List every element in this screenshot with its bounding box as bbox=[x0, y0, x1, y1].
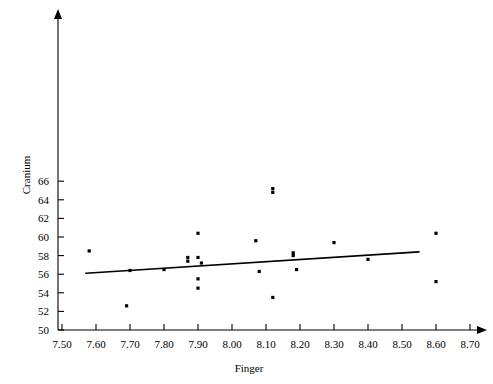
x-tick-label: 8.70 bbox=[460, 338, 480, 350]
y-axis-ticks: 505254565860626466 bbox=[38, 175, 64, 336]
x-tick-label: 7.70 bbox=[120, 338, 140, 350]
data-point bbox=[292, 251, 295, 254]
x-tick-label: 8.50 bbox=[392, 338, 412, 350]
data-points-group bbox=[88, 187, 438, 307]
x-tick-label: 8.20 bbox=[290, 338, 310, 350]
data-point bbox=[88, 249, 91, 252]
y-tick-label: 64 bbox=[38, 194, 50, 206]
x-tick-label: 8.00 bbox=[222, 338, 242, 350]
y-tick-label: 62 bbox=[38, 212, 49, 224]
plot-canvas: 7.507.607.707.807.908.008.108.208.308.40… bbox=[0, 0, 493, 384]
data-point bbox=[186, 256, 189, 259]
data-point bbox=[292, 254, 295, 257]
y-tick-label: 60 bbox=[38, 231, 50, 243]
x-tick-label: 8.10 bbox=[256, 338, 276, 350]
data-point bbox=[196, 256, 199, 259]
scatter-plot-figure: 7.507.607.707.807.908.008.108.208.308.40… bbox=[0, 0, 493, 384]
data-point bbox=[196, 277, 199, 280]
x-tick-label: 7.50 bbox=[52, 338, 72, 350]
data-point bbox=[254, 239, 257, 242]
data-point bbox=[258, 270, 261, 273]
x-tick-label: 7.60 bbox=[86, 338, 106, 350]
data-point bbox=[434, 232, 437, 235]
y-tick-label: 66 bbox=[38, 175, 50, 187]
data-point bbox=[271, 296, 274, 299]
x-axis-ticks: 7.507.607.707.807.908.008.108.208.308.40… bbox=[52, 324, 480, 350]
data-point bbox=[196, 232, 199, 235]
x-tick-label: 8.60 bbox=[426, 338, 446, 350]
data-point bbox=[332, 241, 335, 244]
data-point bbox=[196, 287, 199, 290]
y-tick-label: 52 bbox=[38, 305, 49, 317]
y-tick-label: 56 bbox=[38, 268, 50, 280]
y-tick-label: 58 bbox=[38, 250, 50, 262]
y-axis-arrowhead bbox=[54, 9, 62, 19]
x-tick-label: 8.30 bbox=[324, 338, 344, 350]
axes-group bbox=[54, 9, 487, 334]
data-point bbox=[200, 261, 203, 264]
x-tick-label: 8.40 bbox=[358, 338, 378, 350]
data-point bbox=[434, 280, 437, 283]
data-point bbox=[186, 260, 189, 263]
x-axis-arrowhead bbox=[477, 326, 487, 334]
data-point bbox=[271, 191, 274, 194]
data-point bbox=[125, 304, 128, 307]
x-axis-title: Finger bbox=[235, 362, 264, 374]
y-tick-label: 54 bbox=[38, 287, 50, 299]
x-tick-label: 7.80 bbox=[154, 338, 174, 350]
data-point bbox=[271, 187, 274, 190]
data-point bbox=[366, 258, 369, 261]
y-tick-label: 50 bbox=[38, 324, 50, 336]
x-tick-label: 7.90 bbox=[188, 338, 208, 350]
data-point bbox=[295, 268, 298, 271]
regression-line bbox=[86, 252, 419, 273]
y-axis-title: Cranium bbox=[20, 155, 32, 194]
